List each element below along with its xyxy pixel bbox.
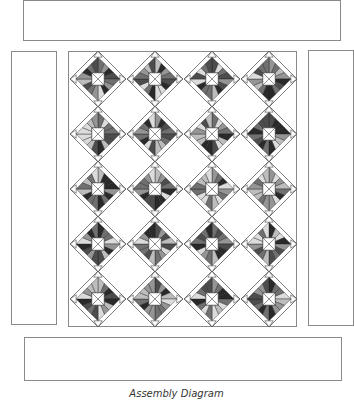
quilt-block: [127, 271, 183, 327]
diagram-caption: Assembly Diagram: [0, 388, 353, 399]
quilt-block: [70, 51, 126, 107]
quilt-block: [70, 106, 126, 162]
quilt-block: [70, 216, 126, 272]
quilt-block: [241, 51, 297, 107]
quilt-block: [184, 216, 240, 272]
quilt-block: [241, 271, 297, 327]
quilt-block: [184, 271, 240, 327]
quilt-block: [184, 51, 240, 107]
quilt-block: [127, 216, 183, 272]
quilt-block: [127, 106, 183, 162]
quilt-block: [184, 106, 240, 162]
quilt-block: [127, 161, 183, 217]
quilt-block: [70, 161, 126, 217]
quilt-block: [241, 106, 297, 162]
quilt-block: [241, 216, 297, 272]
quilt-block: [241, 161, 297, 217]
quilt-block: [127, 51, 183, 107]
quilt-block: [70, 271, 126, 327]
quilt-block: [184, 161, 240, 217]
